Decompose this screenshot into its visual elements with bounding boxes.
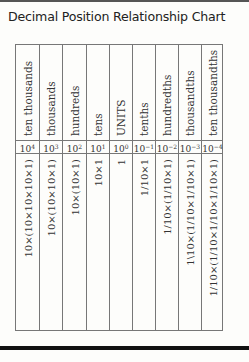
expansion-label: 10×(10×10×1) (46, 159, 57, 236)
place-header: tens (87, 45, 109, 140)
power-cell: 104 (16, 140, 39, 154)
column-ten-thousands: ten thousands 104 10×(10×10×10×1) (16, 45, 39, 330)
expansion-label: 1/10×(1/10×1/10×1/10×1) (207, 159, 218, 297)
expansion-cell: 10×1 (87, 155, 109, 330)
column-thousandths: thousandths 10−3 1\10×(1/10×1/10×1) (178, 45, 201, 330)
power-cell: 10−1 (133, 140, 155, 154)
bottom-border (0, 346, 249, 350)
expansion-cell: 10×(10×1) (63, 155, 86, 330)
column-hundredths: hundredths 10−2 1/10×(1/10×1) (155, 45, 178, 330)
place-label: hundredths (161, 75, 173, 136)
expansion-label: 1/10×(1/10×1) (162, 159, 173, 235)
power-cell: 103 (40, 140, 62, 154)
expansion-cell: 10×(10×10×10×1) (16, 155, 39, 330)
expansion-cell: 1\10×(1/10×1/10×1) (179, 155, 201, 330)
column-ten-thousandths: ten thousandths 10−4 1/10×(1/10×1/10×1/1… (201, 45, 223, 330)
place-label: thousands (45, 81, 57, 136)
place-header: tenths (133, 45, 155, 140)
place-header: hundreds (63, 45, 86, 140)
place-label: hundreds (69, 86, 81, 136)
place-label: ten thousandths (207, 50, 219, 136)
place-header: hundredths (156, 45, 178, 140)
column-tenths: tenths 10−1 1/10×1 (132, 45, 155, 330)
expansion-label: 1 (116, 159, 127, 165)
power-cell: 100 (110, 140, 132, 154)
power-cell: 10−3 (179, 140, 201, 154)
place-header: thousandths (179, 45, 201, 140)
expansion-label: 10×(10×1) (69, 159, 80, 215)
column-hundreds: hundreds 102 10×(10×1) (62, 45, 86, 330)
chart-title: Decimal Position Relationship Chart (8, 9, 225, 24)
place-label: ten thousands (22, 61, 34, 136)
place-label: tens (92, 113, 104, 136)
top-border (0, 0, 249, 2)
power-cell: 10−2 (156, 140, 178, 154)
place-header: thousands (40, 45, 62, 140)
expansion-label: 10×1 (93, 159, 104, 186)
place-label: thousandths (184, 70, 196, 136)
power-cell: 102 (63, 140, 86, 154)
place-value-table: ten thousands 104 10×(10×10×10×1) thousa… (15, 44, 223, 331)
expansion-cell: 1/10×(1/10×1/10×1/10×1) (202, 155, 223, 330)
place-label: tenths (138, 102, 150, 136)
expansion-label: 1/10×1 (139, 159, 150, 196)
power-cell: 10−4 (202, 140, 223, 154)
place-label: UNITS (115, 100, 127, 136)
expansion-cell: 1/10×1 (133, 155, 155, 330)
column-units: UNITS 100 1 (109, 45, 132, 330)
expansion-label: 10×(10×10×10×1) (22, 159, 33, 258)
column-thousands: thousands 103 10×(10×10×1) (39, 45, 62, 330)
expansion-cell: 1 (110, 155, 132, 330)
place-header: ten thousandths (202, 45, 223, 140)
place-header: UNITS (110, 45, 132, 140)
power-cell: 101 (87, 140, 109, 154)
column-tens: tens 101 10×1 (86, 45, 109, 330)
expansion-cell: 1/10×(1/10×1) (156, 155, 178, 330)
expansion-label: 1\10×(1/10×1/10×1) (185, 159, 196, 266)
place-header: ten thousands (16, 45, 39, 140)
expansion-cell: 10×(10×10×1) (40, 155, 62, 330)
